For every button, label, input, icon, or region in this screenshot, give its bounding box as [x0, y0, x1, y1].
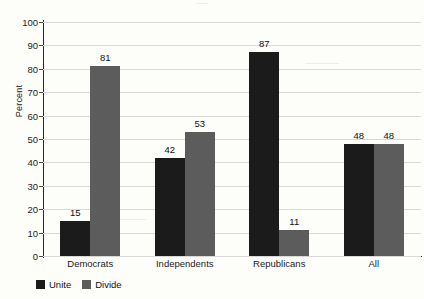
y-axis-title: Percent	[14, 66, 24, 136]
bar-value-label: 11	[289, 216, 299, 227]
legend-item-divide[interactable]: Divide	[82, 279, 121, 290]
y-axis-tick-label: 30	[27, 180, 38, 191]
bar-all-unite[interactable]: 48	[344, 144, 374, 256]
legend: UniteDivide	[36, 279, 122, 290]
bar-republicans-divide[interactable]: 11	[279, 230, 309, 256]
y-axis-tick-label: 90	[27, 40, 38, 51]
y-axis-tick-label: 20	[27, 204, 38, 215]
legend-item-unite[interactable]: Unite	[36, 279, 71, 290]
bar-rect	[155, 158, 185, 256]
bar-rect	[60, 221, 90, 256]
bar-value-label: 48	[353, 130, 364, 141]
y-axis-tick-label: 60	[27, 110, 38, 121]
bar-independents-unite[interactable]: 42	[155, 158, 185, 256]
y-axis-tick-label: 70	[27, 87, 38, 98]
bar-group-republicans: 8711	[232, 22, 327, 256]
bar-all-divide[interactable]: 48	[374, 144, 404, 256]
bar-group-all: 4848	[327, 22, 422, 256]
legend-label: Unite	[49, 279, 71, 290]
bar-value-label: 48	[383, 130, 394, 141]
bar-democrats-unite[interactable]: 15	[60, 221, 90, 256]
scan-artifact	[305, 63, 339, 64]
bar-chart-figure: Percent 01020304050607080901001581425387…	[0, 0, 424, 299]
bar-value-label: 53	[194, 118, 205, 129]
bar-rect	[90, 66, 120, 256]
x-axis-category-republicans: Republicans	[232, 258, 327, 269]
gridline	[43, 256, 421, 257]
bar-rect	[344, 144, 374, 256]
y-axis-tick-label: 10	[27, 227, 38, 238]
bar-republicans-unite[interactable]: 87	[249, 52, 279, 256]
bar-value-label: 87	[259, 38, 270, 49]
bar-rect	[185, 132, 215, 256]
bar-rect	[279, 230, 309, 256]
bar-group-democrats: 1581	[43, 22, 138, 256]
scan-artifact	[120, 219, 146, 220]
legend-swatch-icon	[82, 280, 91, 289]
y-axis-tick-label: 100	[22, 17, 38, 28]
y-axis-tick-label: 50	[27, 134, 38, 145]
y-axis-tick-label: 0	[33, 251, 38, 262]
scan-artifact	[196, 3, 208, 4]
plot-area: 01020304050607080901001581425387114848	[43, 22, 421, 256]
y-axis-tick-label: 40	[27, 157, 38, 168]
x-axis-category-democrats: Democrats	[43, 258, 138, 269]
legend-swatch-icon	[36, 280, 45, 289]
x-axis-category-all: All	[327, 258, 422, 269]
bar-value-label: 42	[164, 144, 175, 155]
y-axis-tick-mark	[39, 256, 43, 257]
bar-rect	[249, 52, 279, 256]
legend-label: Divide	[95, 279, 121, 290]
bar-group-independents: 4253	[138, 22, 233, 256]
y-axis-tick-label: 80	[27, 63, 38, 74]
bar-rect	[374, 144, 404, 256]
x-axis-category-independents: Independents	[138, 258, 233, 269]
bar-democrats-divide[interactable]: 81	[90, 66, 120, 256]
bar-value-label: 15	[70, 207, 81, 218]
bar-value-label: 81	[100, 52, 111, 63]
bar-independents-divide[interactable]: 53	[185, 132, 215, 256]
